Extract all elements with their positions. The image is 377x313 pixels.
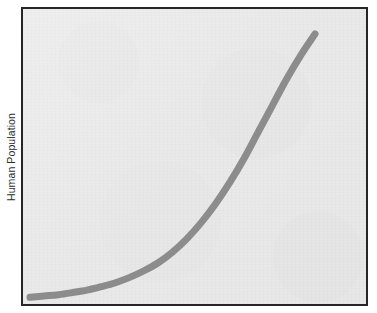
plot-area	[21, 7, 368, 306]
population-growth-figure: Human Population	[0, 0, 377, 313]
exponential-growth-curve	[30, 34, 315, 297]
y-axis-label-text: Human Population	[5, 113, 17, 201]
growth-curve-plot	[23, 9, 368, 306]
y-axis-label: Human Population	[0, 0, 21, 313]
